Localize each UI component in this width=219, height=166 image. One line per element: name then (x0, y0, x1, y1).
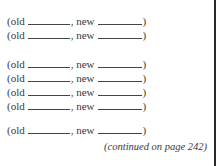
old-new-row: (old, new) (7, 100, 146, 113)
new-blank-field[interactable] (98, 80, 142, 82)
close-paren: ) (143, 86, 147, 99)
old-blank-field[interactable] (28, 23, 70, 25)
new-label: , new (71, 72, 95, 85)
old-label: (old (7, 100, 25, 113)
close-paren: ) (143, 29, 147, 42)
old-blank-field[interactable] (28, 80, 70, 82)
new-label: , new (71, 58, 95, 71)
close-paren: ) (143, 100, 147, 113)
new-label: , new (71, 124, 95, 137)
old-new-row: (old, new) (7, 15, 146, 28)
new-label: , new (71, 100, 95, 113)
old-new-row: (old, new) (7, 124, 146, 137)
old-label: (old (7, 86, 25, 99)
new-blank-field[interactable] (98, 37, 142, 39)
new-blank-field[interactable] (98, 108, 142, 110)
new-label: , new (71, 15, 95, 28)
old-label: (old (7, 58, 25, 71)
new-blank-field[interactable] (98, 66, 142, 68)
old-label: (old (7, 29, 25, 42)
new-blank-field[interactable] (98, 23, 142, 25)
old-blank-field[interactable] (28, 94, 70, 96)
old-label: (old (7, 72, 25, 85)
old-new-row: (old, new) (7, 86, 146, 99)
old-new-row: (old, new) (7, 29, 146, 42)
old-blank-field[interactable] (28, 108, 70, 110)
old-new-row: (old, new) (7, 72, 146, 85)
old-label: (old (7, 124, 25, 137)
new-label: , new (71, 86, 95, 99)
old-blank-field[interactable] (28, 37, 70, 39)
close-paren: ) (143, 58, 147, 71)
close-paren: ) (143, 124, 147, 137)
new-blank-field[interactable] (98, 132, 142, 134)
page-edge-rule (214, 0, 216, 166)
close-paren: ) (143, 72, 147, 85)
old-new-row: (old, new) (7, 58, 146, 71)
continued-caption: (continued on page 242) (104, 141, 207, 152)
close-paren: ) (143, 15, 147, 28)
new-blank-field[interactable] (98, 94, 142, 96)
old-label: (old (7, 15, 25, 28)
new-label: , new (71, 29, 95, 42)
old-blank-field[interactable] (28, 66, 70, 68)
old-blank-field[interactable] (28, 132, 70, 134)
